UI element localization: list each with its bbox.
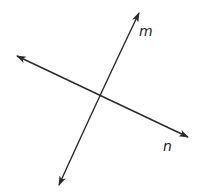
intersecting-lines-diagram: m n	[0, 0, 201, 194]
label-n: n	[163, 138, 172, 154]
line-m	[59, 13, 139, 185]
line-n	[17, 56, 188, 137]
label-m: m	[139, 23, 153, 39]
